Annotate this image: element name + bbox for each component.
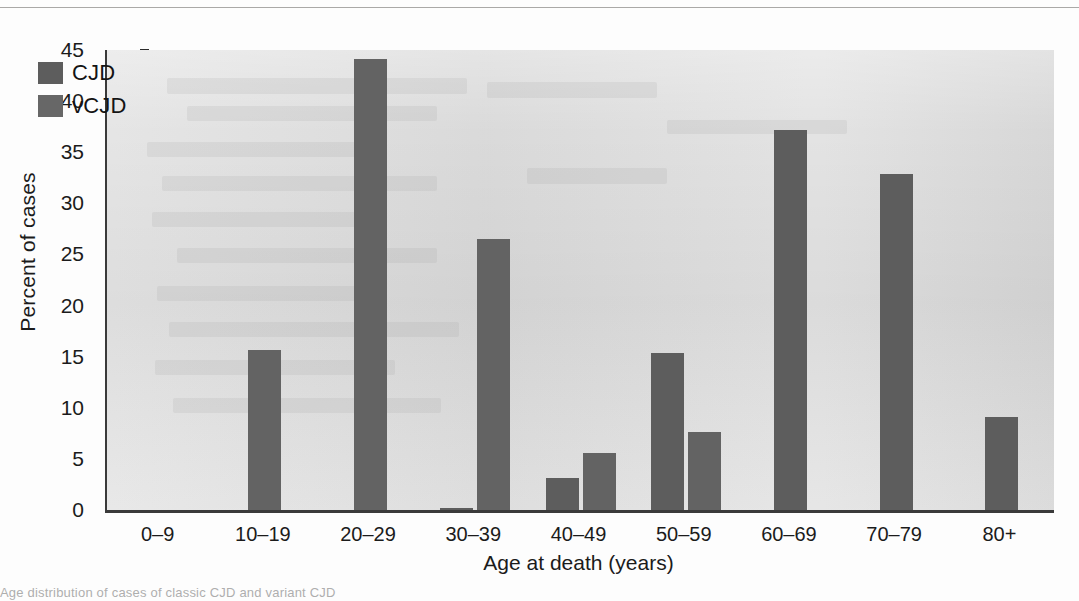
legend-item-vcjd: vCJD [38, 89, 127, 122]
bar-vcjd-20-29 [354, 59, 387, 510]
y-axis-label: Percent of cases [16, 72, 40, 432]
chart-legend: CJD vCJD [38, 56, 127, 122]
legend-swatch-cjd [38, 62, 63, 84]
bar-cjd-30-39 [440, 508, 473, 510]
x-tick-label: 80+ [982, 523, 1016, 546]
y-tick-label: 35 [40, 140, 84, 164]
bar-chart-figure: Percent of cases 051015202530354045 0–91… [0, 18, 1079, 578]
legend-item-cjd: CJD [38, 56, 127, 89]
bar-vcjd-10-19 [248, 350, 281, 510]
x-tick-label: 10–19 [235, 523, 291, 546]
y-tick-label: 25 [40, 242, 84, 266]
x-axis-tick-labels: 0–910–1920–2930–3940–4950–5960–6970–7980… [105, 513, 1052, 553]
y-tick-label: 30 [40, 191, 84, 215]
x-tick-label: 40–49 [551, 523, 607, 546]
y-tick-label: 15 [40, 345, 84, 369]
bar-vcjd-40-49 [583, 453, 616, 510]
page-rule-top [0, 7, 1079, 8]
bar-cjd-70-79 [880, 174, 913, 510]
legend-label-cjd: CJD [72, 60, 115, 86]
plot-area [105, 50, 1054, 510]
bar-cjd-60-69 [774, 130, 807, 510]
legend-swatch-vcjd [38, 95, 63, 117]
x-tick-label: 0–9 [141, 523, 174, 546]
y-tick-label: 5 [40, 447, 84, 471]
bar-vcjd-30-39 [477, 239, 510, 510]
y-tick-label: 10 [40, 396, 84, 420]
legend-label-vcjd: vCJD [72, 93, 127, 119]
bar-cjd-40-49 [546, 478, 579, 510]
figure-caption-ghost: Age distribution of cases of classic CJD… [0, 585, 1079, 601]
x-tick-label: 60–69 [761, 523, 817, 546]
bar-cjd-50-59 [651, 353, 684, 510]
x-tick-label: 30–39 [445, 523, 501, 546]
x-tick-label: 50–59 [656, 523, 712, 546]
x-axis-label: Age at death (years) [105, 551, 1052, 575]
x-tick-label: 20–29 [340, 523, 396, 546]
y-tick-label: 0 [40, 498, 84, 522]
bar-cjd-80+ [985, 417, 1018, 510]
bar-vcjd-50-59 [688, 432, 721, 510]
x-tick-label: 70–79 [866, 523, 922, 546]
y-tick-label: 20 [40, 294, 84, 318]
scanned-page: Percent of cases 051015202530354045 0–91… [0, 0, 1079, 601]
